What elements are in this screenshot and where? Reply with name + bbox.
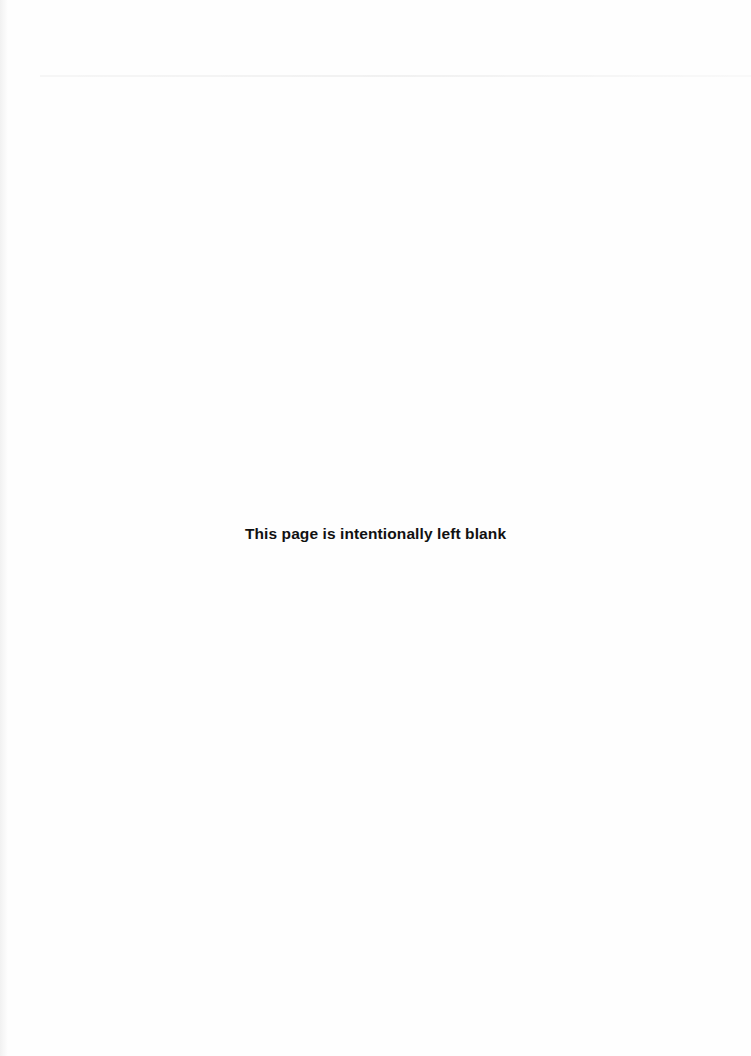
bleed-through-rule (40, 75, 751, 77)
blank-page-notice: This page is intentionally left blank (0, 525, 751, 543)
document-page: This page is intentionally left blank (0, 0, 751, 1056)
